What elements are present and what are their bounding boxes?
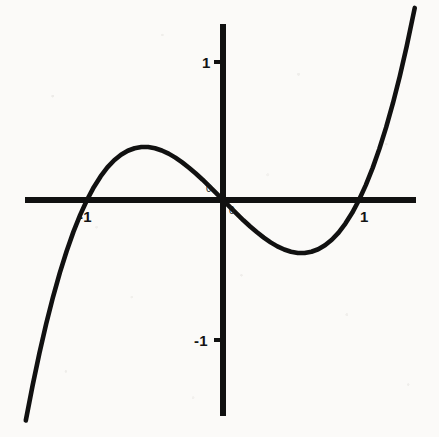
x-axis-label-negative-one: -1 xyxy=(78,209,92,224)
cubic-function-plot xyxy=(0,0,439,437)
x-axis-label-positive-one: 1 xyxy=(360,209,369,224)
origin-annotation-upper: 0 xyxy=(206,184,212,194)
origin-annotation-lower: 0 xyxy=(229,206,235,216)
y-axis-label-negative-one: -1 xyxy=(194,333,208,348)
figure-canvas: 1 -1 -1 1 0 0 xyxy=(0,0,439,437)
y-axis-label-positive-one: 1 xyxy=(202,55,211,70)
